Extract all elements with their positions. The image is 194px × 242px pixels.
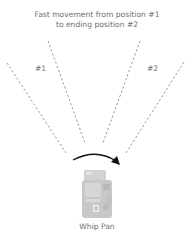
- position-2-outer-line: [126, 62, 184, 153]
- position-2-field-lines: [103, 41, 184, 153]
- position-2-inner-line: [103, 41, 140, 143]
- diagram-caption: Whip Pan: [0, 222, 194, 231]
- camera-icon: [82, 170, 112, 218]
- whip-pan-diagram: [0, 0, 194, 242]
- position-1-outer-line: [7, 63, 66, 153]
- position-1-field-lines: [7, 41, 85, 153]
- position-2-label: #2: [147, 64, 158, 73]
- position-1-label: #1: [35, 64, 46, 73]
- position-1-inner-line: [48, 41, 85, 143]
- curved-arrow-icon: [73, 154, 120, 165]
